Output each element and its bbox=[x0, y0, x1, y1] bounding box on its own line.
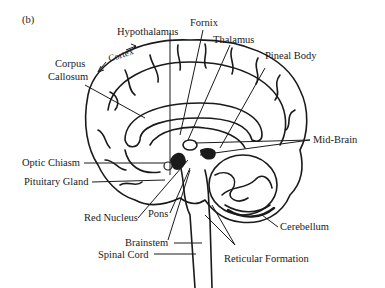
label-pineal-body: Pineal Body bbox=[265, 50, 317, 62]
label-brainstem: Brainstem bbox=[125, 237, 168, 249]
label-pons: Pons bbox=[148, 208, 168, 220]
leader-corpus bbox=[85, 85, 145, 118]
leader-fornix bbox=[180, 30, 203, 135]
leader-pituitary bbox=[92, 180, 165, 182]
label-corpus-callosum-line2: Callosum bbox=[48, 71, 88, 83]
leader-thalamus bbox=[188, 45, 230, 140]
brainstem-outline bbox=[180, 165, 195, 288]
cerebellum-shape bbox=[209, 155, 277, 215]
label-optic-chiasm: Optic Chiasm bbox=[22, 157, 80, 169]
cerebrum-outline bbox=[86, 40, 307, 223]
label-spinal-cord: Spinal Cord bbox=[98, 249, 148, 261]
leader-pineal bbox=[220, 68, 265, 148]
brain-diagram: (b) Cortex Hypothalamus Fornix Thalamus … bbox=[0, 0, 385, 288]
label-pituitary-gland: Pituitary Gland bbox=[24, 176, 88, 188]
label-corpus-callosum-line1: Corpus bbox=[55, 58, 85, 70]
label-mid-brain: Mid-Brain bbox=[313, 134, 357, 146]
label-fornix: Fornix bbox=[190, 17, 218, 29]
label-red-nucleus: Red Nucleus bbox=[84, 212, 138, 224]
label-hypothalamus: Hypothalamus bbox=[117, 26, 178, 38]
panel-label: (b) bbox=[22, 14, 34, 26]
label-cerebellum: Cerebellum bbox=[280, 221, 329, 233]
label-thalamus: Thalamus bbox=[213, 34, 254, 46]
label-reticular-formation: Reticular Formation bbox=[224, 253, 309, 265]
